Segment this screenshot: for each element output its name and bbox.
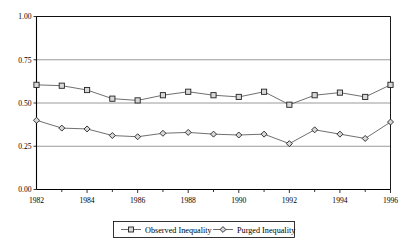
series-observed-inequality [34, 82, 393, 107]
data-point-purged-inequality-1988 [185, 129, 191, 135]
data-point-observed-inequality-1992 [287, 102, 292, 107]
data-point-purged-inequality-1986 [135, 134, 141, 140]
data-point-observed-inequality-1984 [84, 87, 89, 92]
x-tick-label-1994: 1994 [332, 196, 347, 205]
data-point-observed-inequality-1990 [236, 94, 241, 99]
x-tick-label-1986: 1986 [130, 196, 145, 205]
series-purged-inequality [34, 117, 394, 146]
chart-container: 0.000.250.500.751.00 1982198419861988199… [0, 0, 404, 246]
data-point-purged-inequality-1983 [59, 125, 65, 131]
legend-label-purged-inequality: Purged Inequality [237, 226, 296, 235]
data-point-purged-inequality-1991 [261, 131, 267, 137]
data-point-observed-inequality-1985 [110, 96, 115, 101]
x-tick-label-1996: 1996 [383, 196, 398, 205]
data-point-observed-inequality-1994 [337, 90, 342, 95]
y-axis-tick-labels: 0.000.250.500.751.00 [18, 12, 36, 194]
data-point-observed-inequality-1996 [388, 82, 393, 87]
data-point-purged-inequality-1993 [312, 127, 318, 133]
data-point-purged-inequality-1995 [362, 135, 368, 141]
data-point-purged-inequality-1989 [211, 131, 217, 137]
x-tick-label-1982: 1982 [29, 196, 44, 205]
data-point-purged-inequality-1985 [109, 133, 115, 139]
data-point-purged-inequality-1996 [388, 119, 394, 125]
data-point-purged-inequality-1987 [160, 130, 166, 136]
data-point-purged-inequality-1992 [286, 141, 292, 147]
data-point-purged-inequality-1994 [337, 131, 343, 137]
data-point-observed-inequality-1989 [211, 93, 216, 98]
data-point-purged-inequality-1990 [236, 132, 242, 138]
y-tick-label-0.25: 0.25 [18, 142, 31, 151]
data-point-observed-inequality-1987 [160, 93, 165, 98]
data-point-observed-inequality-1983 [59, 83, 64, 88]
data-point-observed-inequality-1986 [135, 98, 140, 103]
x-tick-label-1992: 1992 [282, 196, 297, 205]
y-tick-label-0.50: 0.50 [18, 99, 31, 108]
x-tick-label-1990: 1990 [231, 196, 246, 205]
y-tick-label-1.00: 1.00 [18, 12, 31, 21]
data-point-observed-inequality-1988 [186, 89, 191, 94]
data-point-observed-inequality-1993 [312, 93, 317, 98]
legend-marker-square [129, 227, 134, 232]
data-point-observed-inequality-1995 [363, 94, 368, 99]
x-axis-tick-labels: 19821984198619881990199219941996 [29, 196, 398, 205]
y-tick-label-0.75: 0.75 [18, 56, 31, 65]
data-point-purged-inequality-1982 [34, 117, 40, 123]
y-tick-label-0.00: 0.00 [18, 185, 31, 194]
line-chart: 0.000.250.500.751.00 1982198419861988199… [0, 0, 404, 246]
data-point-observed-inequality-1982 [34, 82, 39, 87]
x-tick-label-1984: 1984 [79, 196, 94, 205]
legend-label-observed-inequality: Observed Inequality [145, 226, 213, 235]
data-point-observed-inequality-1991 [261, 89, 266, 94]
gridlines-group [37, 17, 391, 147]
data-point-purged-inequality-1984 [84, 126, 90, 132]
x-tick-label-1988: 1988 [181, 196, 196, 205]
chart-legend: Observed InequalityPurged Inequality [114, 222, 297, 238]
